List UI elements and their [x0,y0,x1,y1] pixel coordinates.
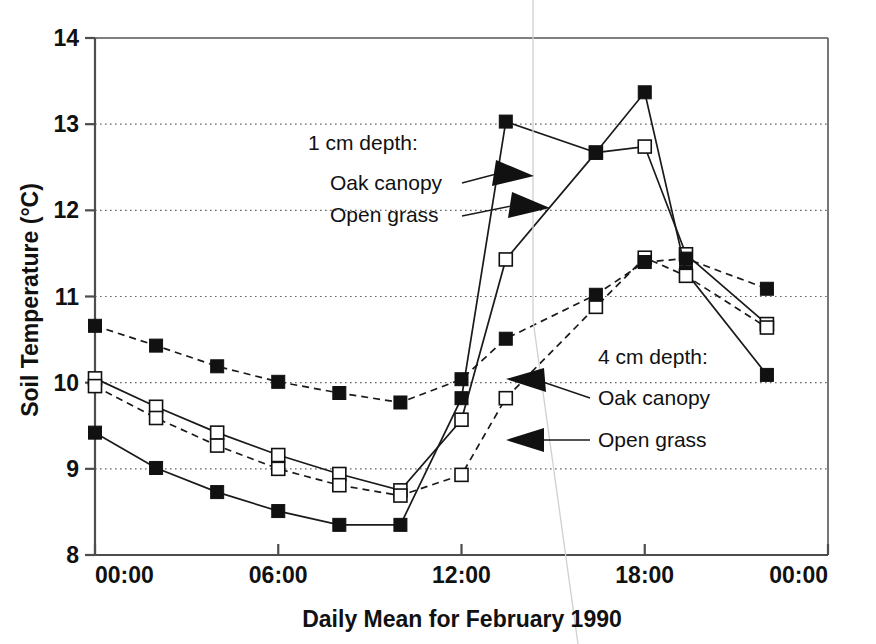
data-point [333,387,346,400]
x-tick-label-0: 00:00 [95,562,154,588]
data-point [760,282,773,295]
data-point [679,269,692,282]
data-point [150,461,163,474]
y-tick-label-13: 13 [53,111,79,137]
x-tick-label-3: 18:00 [615,562,674,588]
chart-canvas: 891011121314 00:0006:0012:0018:0000:00 S… [0,0,876,644]
data-point [455,468,468,481]
y-tick-label-8: 8 [66,542,79,568]
x-tick-label-2: 12:00 [432,562,491,588]
data-point [638,140,651,153]
data-point [272,449,285,462]
data-point [455,392,468,405]
data-point [589,300,602,313]
data-point [455,413,468,426]
data-point [589,146,602,159]
y-tick-label-12: 12 [53,197,79,223]
data-point [333,518,346,531]
data-point [272,505,285,518]
data-point [211,439,224,452]
annotation-4cm-heading: 4 cm depth: [598,345,708,368]
data-point [499,115,512,128]
x-axis-title: Daily Mean for February 1990 [302,606,622,632]
data-point [394,489,407,502]
y-tick-label-10: 10 [53,370,79,396]
data-point [211,426,224,439]
data-point [89,426,102,439]
annotation-4cm-oak-label: Oak canopy [598,386,711,409]
y-tick-label-9: 9 [66,456,79,482]
soil-temperature-chart: 891011121314 00:0006:0012:0018:0000:00 S… [0,0,876,644]
data-point [760,321,773,334]
x-axis-tick-labels: 00:0006:0012:0018:0000:00 [95,562,828,588]
data-point [589,288,602,301]
y-axis-title: Soil Temperature (°C) [17,183,43,417]
data-point [394,518,407,531]
data-point [150,339,163,352]
data-point [499,332,512,345]
annotation-1cm-oak-label: Oak canopy [330,171,443,194]
data-point [211,360,224,373]
data-point [455,373,468,386]
data-point [89,380,102,393]
annotation-4cm-grass-label: Open grass [598,428,707,451]
data-point [211,486,224,499]
data-point [679,252,692,265]
data-point [638,256,651,269]
data-point [499,253,512,266]
data-point [89,319,102,332]
data-point [333,479,346,492]
y-tick-label-14: 14 [53,25,79,51]
data-point [394,396,407,409]
data-point [760,368,773,381]
x-tick-label-4: 00:00 [769,562,828,588]
y-axis-tick-labels: 891011121314 [53,25,79,568]
annotation-1cm-grass-label: Open grass [330,203,439,226]
y-axis-ticks [85,38,95,555]
data-point [499,392,512,405]
x-tick-label-1: 06:00 [249,562,308,588]
y-tick-label-11: 11 [55,284,80,310]
annotation-1cm-heading: 1 cm depth: [308,131,418,154]
data-point [638,86,651,99]
data-point [150,412,163,425]
data-point [272,375,285,388]
data-point [272,462,285,475]
